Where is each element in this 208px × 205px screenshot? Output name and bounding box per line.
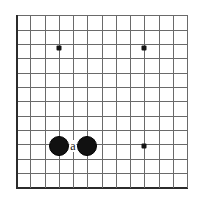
grid-line-vertical [116,15,117,188]
black-stone-left[interactable] [49,136,69,156]
grid-line-vertical [173,15,174,188]
grid-line-vertical [59,15,60,188]
grid-line-vertical [45,15,46,188]
board-edge-left [16,15,18,188]
star-point-lower-right [142,144,147,149]
grid-line-vertical [130,15,131,188]
grid-line-vertical [87,15,88,188]
grid-line-vertical [30,15,31,188]
star-point-upper-left [57,46,62,51]
point-label-a[interactable]: a [69,140,76,152]
star-point-upper-right [142,46,147,51]
grid-line-vertical [144,15,145,188]
go-board-diagram: a [0,0,208,205]
grid-line-vertical [159,15,160,188]
grid-line-vertical [102,15,103,188]
grid-line-vertical [73,15,74,188]
grid-line-vertical [187,15,188,188]
black-stone-right[interactable] [77,136,97,156]
